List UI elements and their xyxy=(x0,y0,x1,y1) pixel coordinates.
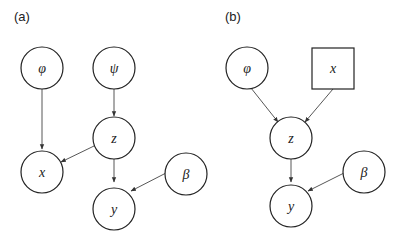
node-phi: φ xyxy=(21,47,63,89)
node-psi: ψ xyxy=(93,47,135,89)
node-psi-label: ψ xyxy=(110,61,119,76)
node-y: y xyxy=(270,185,312,227)
node-z-label: z xyxy=(287,131,294,146)
panel-b: (b) φ x z y β xyxy=(225,9,385,227)
edge-beta-to-y xyxy=(308,173,344,191)
node-z: z xyxy=(93,117,135,159)
graphical-models-diagram: (a) φ ψ z x y β xyxy=(0,0,400,237)
edge-x-to-z xyxy=(305,89,333,122)
node-y: y xyxy=(93,188,135,230)
edge-phi-to-z xyxy=(251,88,278,122)
panel-a: (a) φ ψ z x y β xyxy=(14,9,207,230)
node-x-observed: x xyxy=(312,48,354,89)
edge-z-to-x xyxy=(61,146,94,162)
node-y-label: y xyxy=(109,202,118,217)
node-z-label: z xyxy=(110,131,117,146)
panel-b-label: (b) xyxy=(225,9,241,24)
edge-beta-to-y xyxy=(131,173,166,191)
node-phi-label: φ xyxy=(38,61,46,76)
node-phi-label: φ xyxy=(243,61,251,76)
node-y-label: y xyxy=(286,199,295,214)
panel-a-label: (a) xyxy=(14,9,30,24)
node-beta-label: β xyxy=(360,165,368,180)
node-x: x xyxy=(21,151,63,193)
node-x-label: x xyxy=(38,165,46,180)
node-z: z xyxy=(270,117,312,159)
node-beta-label: β xyxy=(182,167,190,182)
node-beta: β xyxy=(165,153,207,195)
node-phi: φ xyxy=(226,47,268,89)
node-x-label: x xyxy=(329,61,337,76)
node-beta: β xyxy=(343,151,385,193)
